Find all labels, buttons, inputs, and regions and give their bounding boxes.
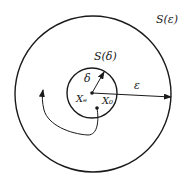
delta-label: δ <box>84 72 91 85</box>
initial-point-label: X₀ <box>101 95 113 106</box>
trajectory-curve <box>42 90 98 135</box>
delta-radius-arrow <box>92 72 104 93</box>
initial-point <box>95 106 99 110</box>
inner-circle-label: S(δ) <box>94 50 117 63</box>
equilibrium-point <box>90 91 94 95</box>
epsilon-label: ε <box>134 79 140 92</box>
stability-diagram: S(ε) S(δ) δ ε Xₑ X₀ <box>0 0 185 180</box>
equilibrium-point-label: Xₑ <box>75 93 87 104</box>
outer-circle-label: S(ε) <box>156 13 178 26</box>
